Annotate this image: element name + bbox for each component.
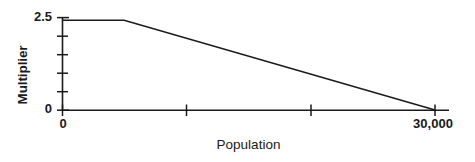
x-axis-label-max: 30,000 (396, 117, 470, 131)
x-axis-label-min: 0 (52, 117, 74, 131)
y-axis-label-max: 2.5 (8, 10, 52, 24)
x-axis-title: Population (62, 136, 435, 154)
chart-figure: Multiplier Population 2.5 0 0 30,000 (0, 0, 475, 162)
y-axis-label-min: 0 (8, 102, 52, 116)
y-axis-title: Multiplier (12, 10, 34, 140)
